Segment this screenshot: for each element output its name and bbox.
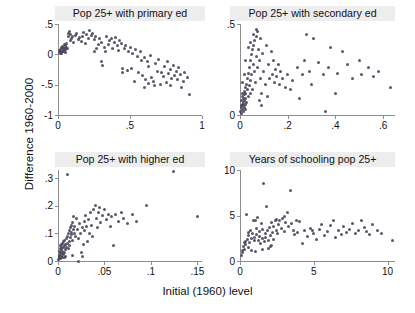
y-tick-label: 0 bbox=[26, 49, 53, 60]
data-point bbox=[120, 42, 123, 45]
data-point bbox=[311, 229, 314, 232]
y-tick-label: 0 bbox=[208, 256, 235, 267]
data-point bbox=[246, 238, 249, 241]
x-tick bbox=[104, 262, 105, 265]
data-point bbox=[100, 60, 103, 63]
x-tick-label: 0 bbox=[225, 266, 255, 277]
data-point bbox=[354, 232, 357, 235]
data-point bbox=[101, 64, 104, 67]
x-tick bbox=[288, 116, 289, 119]
data-point bbox=[249, 41, 252, 44]
data-point bbox=[283, 215, 286, 218]
y-tick-label: .5 bbox=[26, 19, 53, 30]
y-tick-label: .1 bbox=[26, 228, 53, 239]
data-point bbox=[346, 63, 349, 66]
data-point bbox=[250, 249, 253, 252]
data-point bbox=[110, 37, 113, 40]
data-point bbox=[79, 232, 82, 235]
data-point bbox=[243, 248, 246, 251]
data-point bbox=[273, 81, 276, 84]
data-point bbox=[249, 92, 252, 95]
y-tick bbox=[55, 54, 58, 55]
data-point bbox=[301, 242, 304, 245]
x-tick-label: .6 bbox=[368, 120, 398, 131]
data-point bbox=[257, 239, 260, 242]
data-point bbox=[246, 88, 249, 91]
data-point bbox=[140, 59, 143, 62]
data-point bbox=[247, 95, 250, 98]
x-tick-label: 0 bbox=[225, 120, 255, 131]
data-point bbox=[133, 80, 136, 83]
x-tick-label: 10 bbox=[373, 266, 403, 277]
data-point bbox=[254, 219, 257, 222]
data-point bbox=[179, 73, 182, 76]
data-point bbox=[152, 80, 155, 83]
data-point bbox=[107, 213, 110, 216]
data-point bbox=[296, 66, 299, 69]
data-point bbox=[83, 220, 86, 223]
x-tick bbox=[335, 116, 336, 119]
data-point bbox=[391, 239, 394, 242]
data-point bbox=[169, 68, 172, 71]
data-point bbox=[68, 240, 71, 243]
data-point bbox=[377, 70, 380, 73]
x-axis-line bbox=[240, 261, 395, 262]
x-tick bbox=[58, 116, 59, 119]
data-point bbox=[172, 64, 175, 67]
data-point bbox=[126, 69, 129, 72]
data-point bbox=[240, 254, 243, 257]
data-point bbox=[260, 92, 263, 95]
x-tick bbox=[130, 116, 131, 119]
data-point bbox=[150, 76, 153, 79]
data-point bbox=[129, 46, 132, 49]
y-tick bbox=[237, 24, 240, 25]
panel-primary-ed: Pop 25+ with primary ed .50-.5-10.51 bbox=[30, 6, 205, 134]
data-point bbox=[63, 256, 66, 259]
data-point bbox=[97, 43, 100, 46]
data-point bbox=[122, 217, 125, 220]
data-point bbox=[149, 54, 152, 57]
data-point bbox=[109, 225, 112, 228]
data-point bbox=[95, 217, 98, 220]
data-point bbox=[317, 61, 320, 64]
data-point bbox=[113, 41, 116, 44]
data-point bbox=[363, 226, 366, 229]
data-point bbox=[103, 46, 106, 49]
data-point bbox=[63, 251, 66, 254]
data-point bbox=[82, 243, 85, 246]
data-point bbox=[127, 50, 130, 53]
data-point bbox=[269, 245, 272, 248]
data-point bbox=[289, 88, 292, 91]
data-point bbox=[342, 225, 345, 228]
data-point bbox=[258, 99, 261, 102]
data-point bbox=[66, 173, 69, 176]
panel-higher-ed: Pop 25+ with higher ed .3.2.100.05.1.15 bbox=[30, 152, 205, 280]
y-tick-label: 5 bbox=[208, 210, 235, 221]
x-tick bbox=[388, 262, 389, 265]
data-point bbox=[259, 77, 262, 80]
x-tick-label: .2 bbox=[273, 120, 303, 131]
x-tick-label: 5 bbox=[299, 266, 329, 277]
data-point bbox=[136, 55, 139, 58]
data-point bbox=[139, 50, 142, 53]
data-point bbox=[165, 81, 168, 84]
panel-years-schooling: Years of schooling pop 25+ 10500510 bbox=[212, 152, 387, 280]
panel-secondary-ed: Pop 25+ with secondary ed .500.2.4.6 bbox=[212, 6, 387, 134]
data-point bbox=[120, 211, 123, 214]
plot-area bbox=[58, 170, 202, 261]
x-tick bbox=[202, 116, 203, 119]
y-tick-label: 0 bbox=[26, 256, 53, 267]
data-point bbox=[67, 247, 70, 250]
y-tick-label: -1 bbox=[26, 110, 53, 121]
y-tick bbox=[55, 178, 58, 179]
x-tick bbox=[151, 262, 152, 265]
data-point bbox=[245, 101, 248, 104]
data-point bbox=[348, 228, 351, 231]
data-point bbox=[114, 36, 117, 39]
data-point bbox=[143, 56, 146, 59]
x-tick-label: .5 bbox=[115, 120, 145, 131]
data-point bbox=[258, 59, 261, 62]
data-point bbox=[75, 217, 78, 220]
data-point bbox=[268, 226, 271, 229]
data-point bbox=[249, 59, 252, 62]
